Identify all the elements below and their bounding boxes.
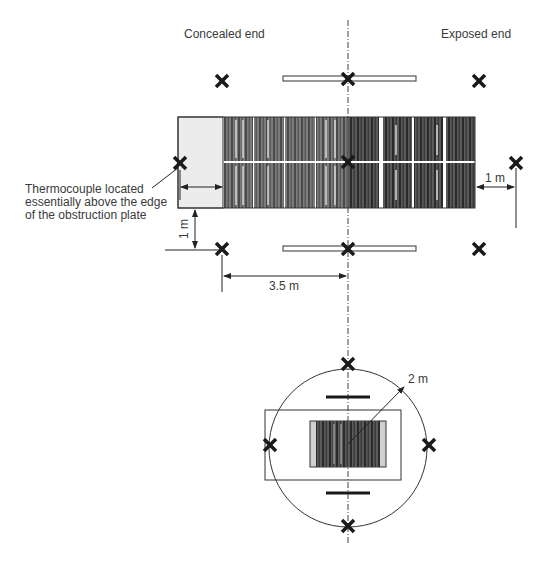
dimension-3-5m: 3.5 m bbox=[269, 280, 299, 293]
thermocouple-x-icon bbox=[510, 157, 522, 169]
label-exposed-end: Exposed end bbox=[441, 28, 511, 41]
rack-plan bbox=[178, 117, 475, 208]
thermocouple-x-icon bbox=[473, 243, 485, 255]
label-concealed-end: Concealed end bbox=[184, 28, 265, 41]
thermocouple-x-icon bbox=[264, 439, 276, 451]
thermocouple-x-icon bbox=[342, 358, 354, 370]
dimension-1m-right: 1 m bbox=[485, 172, 505, 185]
thermocouple-x-icon bbox=[423, 439, 435, 451]
thermocouple-x-icon bbox=[216, 75, 228, 87]
thermocouple-x-icon bbox=[473, 75, 485, 87]
dimension-2m-radius: 2 m bbox=[408, 373, 428, 386]
thermocouple-x-icon bbox=[216, 243, 228, 255]
dimension-1m-left: 1 m bbox=[177, 219, 191, 239]
thermocouple-note: Thermocouple located essentially above t… bbox=[25, 183, 170, 222]
